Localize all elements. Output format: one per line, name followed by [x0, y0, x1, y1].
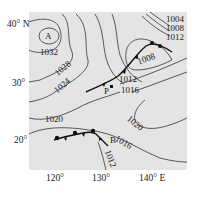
- isobar-label-1012: 1012: [119, 74, 137, 84]
- point-b-label: B: [110, 135, 116, 145]
- isobar-label-1012-ne: 1012: [166, 32, 184, 42]
- front-semicircle-icon: [158, 44, 162, 48]
- lat-label-40: 40° N: [7, 19, 30, 29]
- lat-label-30: 30°: [12, 78, 26, 88]
- lon-label-130: 130°: [92, 173, 110, 183]
- front-semicircle-icon: [73, 131, 77, 135]
- lon-label-140: 140° E: [139, 173, 165, 183]
- lat-label-20: 20°: [14, 135, 28, 145]
- front-semicircle-icon: [91, 129, 95, 133]
- isobar-label-1032: 1032: [40, 47, 58, 57]
- weather-map: A 1032 1028 1024 1020 1020 1016 1016 101…: [0, 0, 200, 197]
- front-semicircle-icon: [150, 41, 154, 45]
- point-p-marker: [110, 85, 113, 88]
- isobar-label-1020-west: 1020: [45, 114, 64, 124]
- high-center-label: A: [45, 31, 52, 41]
- front-semicircle-icon: [55, 136, 59, 140]
- isobar-label-1016-north: 1016: [121, 85, 140, 95]
- lon-label-120: 120°: [46, 173, 64, 183]
- point-p-label: P: [104, 86, 109, 96]
